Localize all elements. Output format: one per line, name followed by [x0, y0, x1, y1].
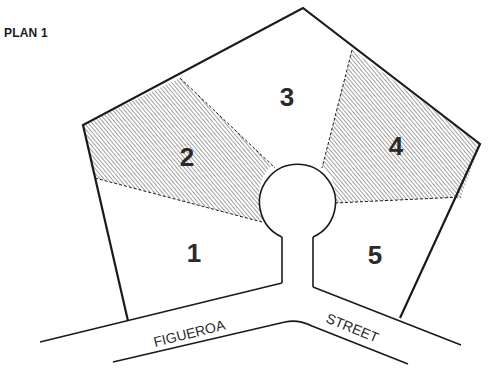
lot-2-label: 2 [180, 142, 194, 172]
site-plan-diagram: 1 2 3 4 5 FIGUEROA STREET [0, 0, 490, 374]
lot-5-label: 5 [368, 240, 382, 270]
lot-1-label: 1 [187, 238, 201, 268]
cul-de-sac [260, 164, 336, 237]
figueroa-street [40, 283, 461, 364]
street-label-street: STREET [324, 310, 382, 346]
lot-3-label: 3 [280, 82, 294, 112]
lot-4-label: 4 [389, 131, 404, 161]
